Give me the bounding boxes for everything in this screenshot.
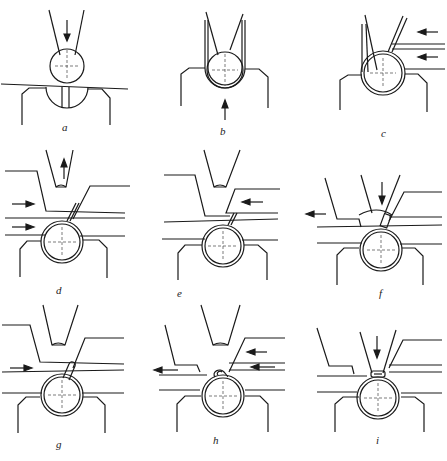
panel-label-i: i <box>376 434 379 446</box>
diagram-panel-f <box>297 145 447 290</box>
panel-label-f: f <box>379 287 382 299</box>
diagram-panel-g <box>0 300 150 440</box>
panel-label-c: c <box>381 127 386 139</box>
panel-label-h: h <box>213 434 219 446</box>
diagram-panel-a <box>0 0 150 130</box>
diagram-panel-d <box>0 145 150 285</box>
diagram-panel-b <box>150 0 300 130</box>
panel-label-e: e <box>177 287 182 299</box>
diagram-panel-h <box>145 300 295 440</box>
diagram-panel-c <box>300 0 447 140</box>
panel-label-a: a <box>62 121 68 133</box>
diagram-panel-e <box>150 145 300 285</box>
panel-label-b: b <box>220 125 226 137</box>
panel-label-g: g <box>56 438 62 450</box>
diagram-panel-i <box>297 300 447 440</box>
panel-label-d: d <box>56 284 62 296</box>
